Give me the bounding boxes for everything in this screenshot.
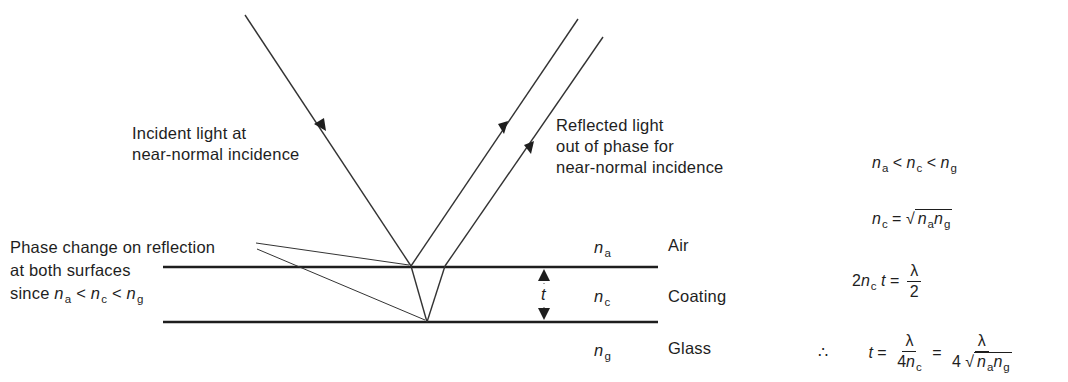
lt-symbol: <: [893, 154, 902, 171]
sqrt-expression: √nang: [906, 210, 952, 230]
n-symbol: n: [91, 284, 100, 302]
equation-inequality: na < nc < ng: [872, 154, 957, 174]
layer-coating-name: Coating: [668, 286, 726, 307]
layer-air-index: na: [594, 237, 611, 264]
n-symbol: n: [977, 353, 986, 370]
denominator: 4nc: [894, 352, 925, 376]
layer-air-name: Air: [668, 235, 689, 256]
sub-g: g: [137, 293, 144, 305]
equals-sign: =: [877, 344, 886, 361]
sub-a: a: [604, 247, 611, 259]
fraction-1: λ4nc: [894, 332, 925, 376]
lt-symbol: <: [76, 284, 86, 302]
n-symbol: n: [594, 287, 603, 305]
reflected-arrow-icon-1: [498, 121, 508, 134]
sub-g: g: [1003, 361, 1009, 373]
coefficient: 4: [897, 353, 906, 370]
phase-line-2: at both surfaces: [10, 259, 215, 282]
reflected-ray-1: [411, 19, 578, 266]
equation-geometric-mean: nc = √nang: [872, 210, 952, 230]
thickness-arrow-down-icon: [538, 308, 550, 320]
refracted-ray-up: [427, 266, 445, 322]
phase-line-1: Phase change on reflection: [10, 236, 215, 259]
pointer-line-top: [256, 243, 409, 265]
equals-sign: =: [932, 344, 941, 361]
n-symbol: n: [906, 353, 915, 370]
pointer-line-bottom: [257, 249, 425, 320]
sub-c: c: [101, 293, 107, 305]
sub-c: c: [916, 162, 922, 174]
sub-c: c: [916, 361, 922, 373]
coefficient: 4: [952, 353, 961, 370]
n-symbol: n: [861, 272, 870, 289]
phase-line-3: since na < nc < ng: [10, 282, 215, 311]
coefficient: 2: [852, 272, 861, 289]
t-symbol: t: [881, 272, 885, 289]
equals-sign: =: [890, 272, 899, 289]
n-symbol: n: [934, 210, 943, 227]
sub-g: g: [944, 218, 950, 230]
n-symbol: n: [872, 154, 881, 171]
phase-change-label: Phase change on reflection at both surfa…: [10, 236, 215, 311]
n-symbol: n: [940, 154, 949, 171]
incident-line-1: Incident light at: [132, 123, 299, 144]
numerator: λ: [975, 332, 989, 352]
since-text: since: [10, 284, 50, 302]
numerator: λ: [902, 332, 916, 352]
sub-a: a: [65, 293, 72, 305]
thin-film-diagram: [0, 0, 1068, 382]
denominator: 2: [907, 282, 922, 301]
n-symbol: n: [907, 154, 916, 171]
lt-symbol: <: [927, 154, 936, 171]
equation-half-wave: 2nc t = λ2: [852, 262, 925, 301]
reflected-arrow-icon-2: [524, 141, 534, 154]
layer-glass-index: ng: [594, 340, 611, 367]
sub-a: a: [882, 162, 888, 174]
equation-thickness: ∴ t = λ4nc = λ4 √nang: [818, 332, 1018, 376]
layer-coating-index: nc: [594, 286, 610, 313]
therefore-icon: ∴: [818, 344, 828, 361]
n-symbol: n: [54, 284, 63, 302]
equals-sign: =: [892, 210, 901, 227]
n-symbol: n: [993, 353, 1002, 370]
incident-light-label: Incident light at near-normal incidence: [132, 123, 299, 165]
sqrt-icon: √: [906, 210, 915, 227]
lt-symbol: <: [112, 284, 122, 302]
sub-c: c: [604, 296, 610, 308]
numerator: λ: [907, 262, 921, 282]
thickness-arrow-up-icon: [538, 269, 550, 281]
n-symbol: n: [594, 341, 603, 359]
denominator: 4 √nang: [949, 352, 1015, 376]
sub-g: g: [604, 350, 611, 362]
fraction: λ2: [907, 262, 922, 301]
n-symbol: n: [127, 284, 136, 302]
sub-c: c: [882, 218, 888, 230]
fraction-2: λ4 √nang: [949, 332, 1015, 376]
sub-g: g: [950, 162, 956, 174]
reflected-line-3: near-normal incidence: [556, 157, 723, 178]
sub-c: c: [871, 280, 877, 292]
sqrt-expression: √nang: [965, 353, 1011, 376]
n-symbol: n: [872, 210, 881, 227]
t-symbol: t: [868, 344, 872, 361]
refracted-ray-down: [411, 266, 427, 322]
n-symbol: n: [918, 210, 927, 227]
sqrt-icon: √: [965, 353, 974, 370]
layer-glass-name: Glass: [668, 338, 711, 359]
n-symbol: n: [594, 238, 603, 256]
thickness-label: t: [540, 284, 547, 305]
reflected-light-label: Reflected light out of phase for near-no…: [556, 115, 723, 178]
reflected-line-1: Reflected light: [556, 115, 723, 136]
reflected-line-2: out of phase for: [556, 136, 723, 157]
incident-line-2: near-normal incidence: [132, 144, 299, 165]
